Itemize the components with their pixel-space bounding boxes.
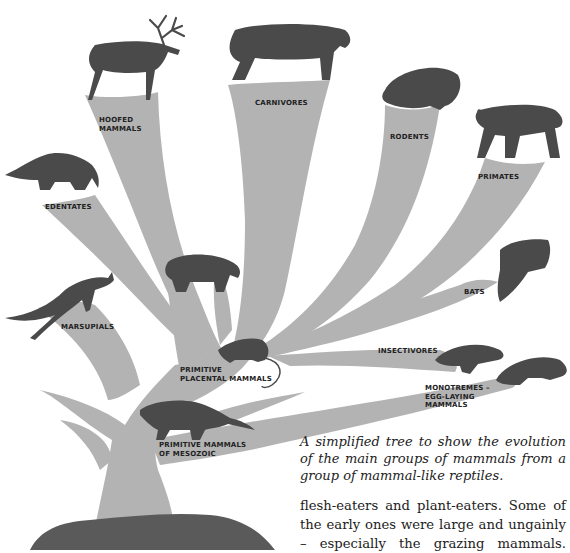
label-edentates: EDENTATES — [45, 203, 92, 212]
label-hoofed-mammals: HOOFED MAMMALS — [99, 116, 142, 133]
label-primitive-mammals-mesozoic: PRIMITIVE MAMMALS OF MESOZOIC — [159, 441, 246, 458]
bat-silhouette — [498, 239, 550, 302]
monkey-silhouette — [476, 105, 563, 158]
label-marsupials: MARSUPIALS — [61, 323, 114, 332]
reptile-silhouette — [30, 514, 275, 550]
body-line: the early ones were large and ungainly — [300, 515, 566, 534]
label-primates: PRIMATES — [478, 173, 519, 182]
label-rodents: RODENTS — [390, 133, 429, 142]
label-insectivores: INSECTIVORES — [378, 347, 438, 356]
label-bats: BATS — [464, 288, 485, 297]
sabre-tooth-silhouette — [230, 24, 351, 80]
body-line: – especially the grazing mammals. — [300, 534, 566, 553]
deer-silhouette — [88, 16, 184, 100]
label-primitive-placental-mammals: PRIMITIVE PLACENTAL MAMMALS — [180, 366, 272, 383]
label-carnivores: CARNIVORES — [255, 99, 308, 108]
body-line: flesh-eaters and plant-eaters. Some of — [300, 496, 566, 515]
rodent-silhouette — [382, 68, 460, 110]
label-monotremes: MONOTREMES – EGG-LAYING MAMMALS — [425, 384, 490, 410]
figure-caption: A simplified tree to show the evolution … — [300, 433, 566, 484]
rhinoceros-silhouette — [165, 255, 240, 293]
body-text: flesh-eaters and plant-eaters. Some of t… — [300, 496, 566, 553]
branch-marsupials — [38, 302, 140, 400]
anteater-silhouette — [5, 153, 99, 190]
platypus-silhouette — [496, 357, 567, 385]
